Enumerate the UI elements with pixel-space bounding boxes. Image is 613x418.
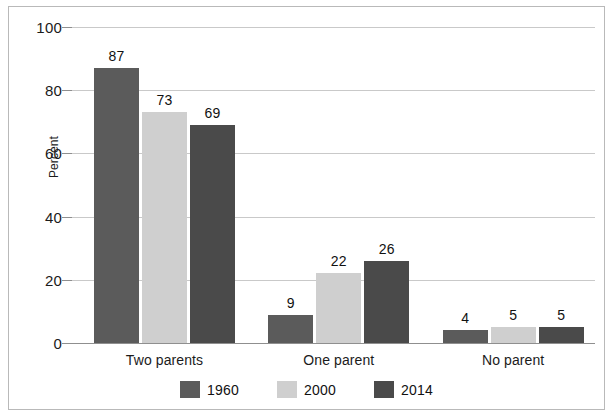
bar[interactable]: 4 bbox=[443, 330, 488, 343]
bar-value-label: 87 bbox=[109, 48, 125, 64]
y-tick-0 bbox=[62, 343, 72, 344]
bar[interactable]: 73 bbox=[142, 112, 187, 343]
bar[interactable]: 69 bbox=[190, 125, 235, 343]
legend-swatch-icon bbox=[277, 381, 297, 398]
bar-rect bbox=[268, 315, 313, 343]
bar[interactable]: 5 bbox=[539, 327, 584, 343]
bar[interactable]: 26 bbox=[364, 261, 409, 343]
y-tick-60 bbox=[62, 153, 72, 154]
bar-rect bbox=[443, 330, 488, 343]
bar[interactable]: 22 bbox=[316, 273, 361, 343]
y-tick-20 bbox=[62, 280, 72, 281]
bar-value-label: 69 bbox=[205, 105, 221, 121]
legend-item-2014[interactable]: 2014 bbox=[374, 381, 433, 398]
bar[interactable]: 5 bbox=[491, 327, 536, 343]
chart-legend: 196020002014 bbox=[0, 381, 613, 398]
y-tick-40 bbox=[62, 217, 72, 218]
bar-value-label: 9 bbox=[287, 295, 295, 311]
y-tick-label-0: 0 bbox=[53, 335, 62, 352]
legend-label: 2014 bbox=[401, 382, 433, 398]
plot-area: 87736992226455 bbox=[72, 27, 595, 343]
bar-value-label: 26 bbox=[379, 241, 395, 257]
bar-value-label: 5 bbox=[557, 307, 565, 323]
category-label-2: No parent bbox=[482, 352, 544, 368]
legend-swatch-icon bbox=[180, 381, 200, 398]
category-label-0: Two parents bbox=[126, 352, 203, 368]
bar[interactable]: 9 bbox=[268, 315, 313, 343]
bar-value-label: 22 bbox=[331, 253, 347, 269]
bar-rect bbox=[94, 68, 139, 343]
legend-swatch-icon bbox=[374, 381, 394, 398]
bar-rect bbox=[539, 327, 584, 343]
bar-rect bbox=[316, 273, 361, 343]
bar-rect bbox=[491, 327, 536, 343]
legend-item-2000[interactable]: 2000 bbox=[277, 381, 336, 398]
bar-value-label: 73 bbox=[157, 92, 173, 108]
y-axis-title: Percent bbox=[47, 97, 61, 217]
y-tick-label-20: 20 bbox=[45, 271, 62, 288]
legend-item-1960[interactable]: 1960 bbox=[180, 381, 239, 398]
bar-chart-figure: 020406080100 Percent 87736992226455 Two … bbox=[0, 0, 613, 418]
y-tick-label-100: 100 bbox=[36, 19, 62, 36]
gridline-0 bbox=[72, 343, 595, 344]
bar-rect bbox=[364, 261, 409, 343]
y-tick-80 bbox=[62, 90, 72, 91]
legend-label: 2000 bbox=[304, 382, 336, 398]
category-label-1: One parent bbox=[303, 352, 374, 368]
bar-value-label: 4 bbox=[461, 310, 469, 326]
gridline-80 bbox=[72, 90, 595, 91]
y-tick-100 bbox=[62, 27, 72, 28]
bar-rect bbox=[142, 112, 187, 343]
bar[interactable]: 87 bbox=[94, 68, 139, 343]
bar-value-label: 5 bbox=[509, 307, 517, 323]
gridline-100 bbox=[72, 27, 595, 28]
bar-rect bbox=[190, 125, 235, 343]
legend-label: 1960 bbox=[207, 382, 239, 398]
